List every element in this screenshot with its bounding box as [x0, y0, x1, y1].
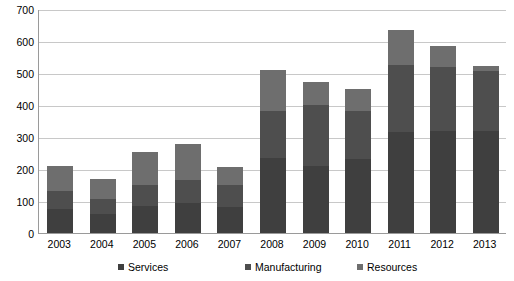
x-axis-tick-label: 2005 [123, 238, 166, 250]
x-axis-tick-label: 2008 [251, 238, 294, 250]
bar-segment-resources[interactable] [90, 179, 116, 200]
x-axis-tick-label: 2013 [463, 238, 506, 250]
legend-swatch-icon [357, 264, 363, 270]
y-axis-tick-label: 300 [0, 133, 34, 143]
bar-group[interactable] [473, 66, 499, 233]
bar-group[interactable] [303, 82, 329, 233]
bar-segment-manufacturing[interactable] [90, 199, 116, 213]
x-axis-tick-label: 2012 [421, 238, 464, 250]
bars-layer [39, 10, 506, 233]
x-axis-tick-label: 2010 [336, 238, 379, 250]
bar-segment-services[interactable] [90, 214, 116, 233]
legend-item-manufacturing[interactable]: Manufacturing [245, 259, 322, 275]
y-axis-tick-label: 200 [0, 165, 34, 175]
bar-segment-services[interactable] [473, 131, 499, 233]
bar-segment-manufacturing[interactable] [132, 185, 158, 206]
x-axis-tick-label: 2009 [293, 238, 336, 250]
bar-segment-manufacturing[interactable] [47, 191, 73, 209]
bar-segment-services[interactable] [345, 159, 371, 233]
x-axis-tick-label: 2006 [166, 238, 209, 250]
y-axis-tick-label: 700 [0, 5, 34, 15]
y-axis-tick-label: 0 [0, 229, 34, 239]
bar-segment-manufacturing[interactable] [345, 111, 371, 159]
bar-segment-resources[interactable] [303, 82, 329, 105]
bar-segment-resources[interactable] [175, 144, 201, 180]
bar-segment-manufacturing[interactable] [217, 185, 243, 207]
bar-group[interactable] [430, 46, 456, 233]
legend-label: Resources [367, 261, 417, 273]
bar-segment-manufacturing[interactable] [430, 67, 456, 131]
x-axis: 2003200420052006200720082009201020112012… [38, 236, 506, 254]
stacked-bar-chart: 7006005004003002001000 20032004200520062… [0, 0, 514, 281]
bar-segment-manufacturing[interactable] [388, 65, 414, 132]
y-axis-tick-label: 600 [0, 37, 34, 47]
bar-group[interactable] [175, 144, 201, 233]
x-axis-tick-label: 2007 [208, 238, 251, 250]
bar-segment-services[interactable] [47, 209, 73, 233]
bar-segment-services[interactable] [260, 158, 286, 233]
y-axis-tick-label: 500 [0, 69, 34, 79]
bar-segment-services[interactable] [303, 166, 329, 233]
bar-segment-services[interactable] [132, 206, 158, 233]
bar-segment-services[interactable] [175, 203, 201, 233]
legend-swatch-icon [118, 264, 124, 270]
bar-segment-manufacturing[interactable] [260, 111, 286, 157]
bar-group[interactable] [90, 179, 116, 233]
x-axis-tick-label: 2011 [378, 238, 421, 250]
bar-segment-resources[interactable] [47, 166, 73, 192]
legend-label: Services [128, 261, 168, 273]
bar-group[interactable] [47, 166, 73, 233]
bar-group[interactable] [217, 167, 243, 233]
plot-area [38, 10, 506, 234]
plot-wrapper: 7006005004003002001000 20032004200520062… [0, 0, 514, 240]
bar-segment-manufacturing[interactable] [473, 71, 499, 130]
y-axis: 7006005004003002001000 [0, 0, 34, 240]
bar-segment-services[interactable] [217, 207, 243, 233]
bar-segment-resources[interactable] [132, 152, 158, 185]
bar-segment-manufacturing[interactable] [175, 180, 201, 202]
bar-group[interactable] [345, 89, 371, 233]
bar-segment-resources[interactable] [217, 167, 243, 185]
x-axis-tick-label: 2003 [38, 238, 81, 250]
bar-segment-manufacturing[interactable] [303, 105, 329, 166]
legend-swatch-icon [245, 264, 251, 270]
bar-group[interactable] [388, 30, 414, 233]
y-axis-tick-label: 400 [0, 101, 34, 111]
bar-group[interactable] [260, 70, 286, 233]
bar-segment-resources[interactable] [260, 70, 286, 112]
chart-legend: ServicesManufacturingResources [0, 259, 514, 279]
bar-segment-resources[interactable] [388, 30, 414, 65]
y-axis-tick-label: 100 [0, 197, 34, 207]
legend-item-resources[interactable]: Resources [357, 259, 417, 275]
bar-segment-resources[interactable] [345, 89, 371, 111]
legend-label: Manufacturing [255, 261, 322, 273]
legend-item-services[interactable]: Services [118, 259, 168, 275]
bar-segment-services[interactable] [388, 132, 414, 233]
x-axis-tick-label: 2004 [81, 238, 124, 250]
bar-segment-resources[interactable] [430, 46, 456, 66]
bar-segment-services[interactable] [430, 131, 456, 233]
bar-group[interactable] [132, 152, 158, 233]
